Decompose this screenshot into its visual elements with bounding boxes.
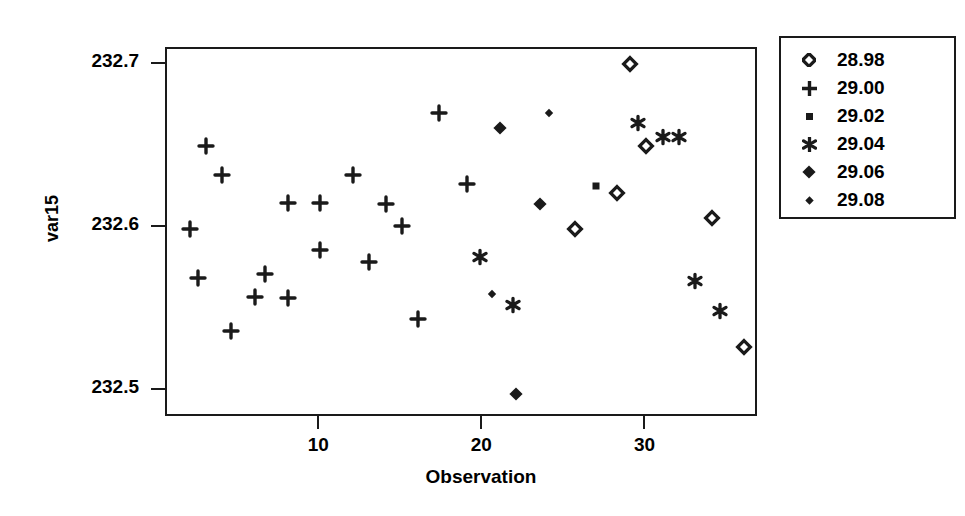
data-point [280, 290, 295, 305]
data-point [460, 177, 475, 192]
y-tick-mark [151, 225, 165, 227]
legend-item[interactable]: 29.04 [781, 130, 954, 158]
data-point [199, 138, 214, 153]
legend-item[interactable]: 29.00 [781, 74, 954, 102]
legend-item[interactable]: 29.08 [781, 186, 954, 214]
data-point [487, 289, 496, 298]
data-point [655, 130, 670, 145]
data-point [610, 186, 624, 200]
legend-marker-icon [781, 81, 837, 96]
data-point [313, 196, 328, 211]
legend-item[interactable]: 29.06 [781, 158, 954, 186]
legend-item-label: 29.08 [837, 189, 885, 211]
data-point [533, 197, 547, 211]
y-tick-label: 232.5 [47, 376, 139, 398]
data-point [623, 57, 637, 71]
legend-item-label: 29.00 [837, 77, 885, 99]
x-tick-label: 10 [288, 434, 348, 456]
x-tick-label: 30 [614, 434, 674, 456]
legend-item-label: 29.02 [837, 105, 885, 127]
legend-item[interactable]: 29.02 [781, 102, 954, 130]
data-point [631, 115, 646, 130]
data-point [223, 324, 238, 339]
data-point [509, 387, 523, 401]
data-point [182, 222, 197, 237]
plot-area [165, 47, 757, 416]
y-tick-label: 232.7 [47, 50, 139, 72]
legend-marker-icon [781, 53, 837, 67]
y-tick-mark [151, 62, 165, 64]
x-tick-mark [643, 416, 645, 429]
legend-marker-icon [781, 137, 837, 152]
y-tick-label: 232.6 [47, 213, 139, 235]
data-point [473, 250, 488, 265]
data-point [215, 167, 230, 182]
legend-marker-icon [781, 112, 837, 121]
legend-item-label: 29.06 [837, 161, 885, 183]
data-point [639, 139, 653, 153]
x-axis-label: Observation [361, 466, 601, 488]
data-point [505, 298, 520, 313]
data-point [432, 106, 447, 121]
legend-marker-icon [781, 165, 837, 179]
x-tick-label: 20 [451, 434, 511, 456]
data-point [345, 167, 360, 182]
data-point [672, 130, 687, 145]
data-point [394, 219, 409, 234]
data-point [737, 340, 751, 354]
legend: 28.9829.0029.0229.0429.0629.08 [779, 36, 956, 219]
data-point [313, 243, 328, 258]
data-point [712, 304, 727, 319]
data-point [544, 109, 553, 118]
data-point [257, 267, 272, 282]
x-tick-mark [317, 416, 319, 429]
data-point [591, 182, 600, 191]
data-point [378, 197, 393, 212]
data-point [411, 311, 426, 326]
x-tick-mark [480, 416, 482, 429]
data-point [280, 196, 295, 211]
data-point [190, 271, 205, 286]
data-point [362, 255, 377, 270]
data-point [568, 222, 582, 236]
y-tick-mark [151, 388, 165, 390]
data-point [688, 274, 703, 289]
data-point [705, 211, 719, 225]
scatter-plot-figure: var15 232.5232.6232.7 102030 Observation… [0, 0, 965, 516]
legend-item-label: 29.04 [837, 133, 885, 155]
data-point [248, 289, 263, 304]
data-point [493, 121, 507, 135]
legend-item-label: 28.98 [837, 49, 885, 71]
legend-marker-icon [781, 196, 837, 205]
legend-item[interactable]: 28.98 [781, 46, 954, 74]
